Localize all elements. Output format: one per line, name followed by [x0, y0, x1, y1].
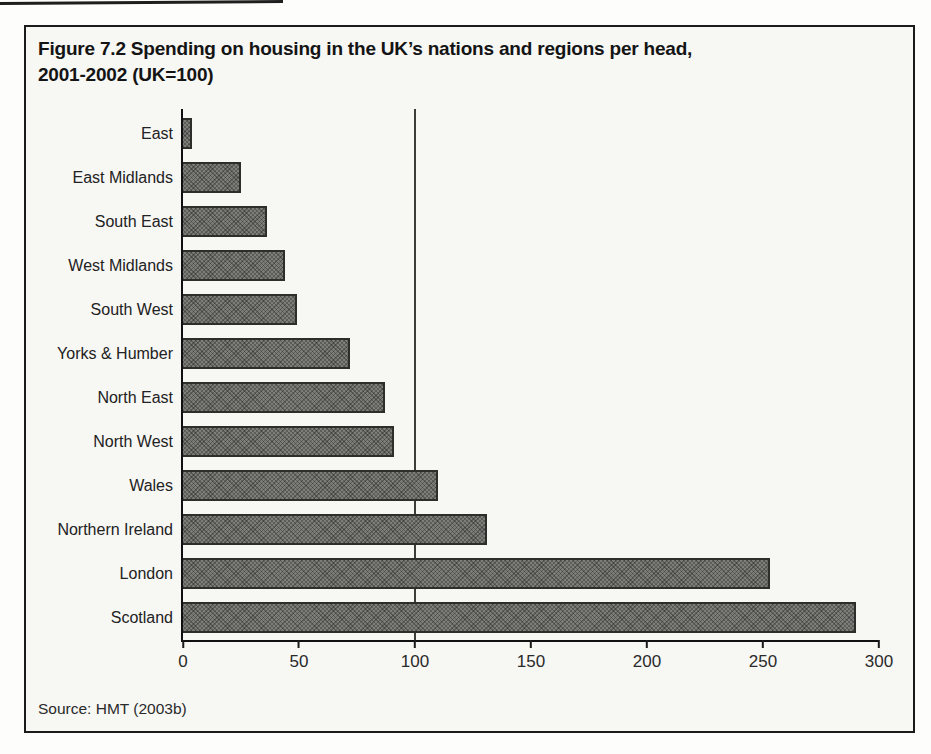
x-axis-tick-label: 100	[401, 652, 429, 672]
bar	[183, 470, 438, 501]
bar	[183, 162, 241, 193]
bar-row: North West	[183, 420, 879, 464]
bar-row: London	[183, 552, 879, 596]
bar-row: East Midlands	[183, 156, 879, 200]
x-axis-tick: 150	[517, 640, 545, 672]
x-axis-tick: 50	[290, 640, 309, 672]
category-label: West Midlands	[18, 244, 173, 288]
bar	[183, 426, 394, 457]
plot-area: EastEast MidlandsSouth EastWest Midlands…	[183, 112, 879, 640]
bar	[183, 118, 192, 149]
category-label: Scotland	[18, 596, 173, 640]
bar	[183, 338, 350, 369]
bar-row: Northern Ireland	[183, 508, 879, 552]
bar-row: Yorks & Humber	[183, 332, 879, 376]
source-caption: Source: HMT (2003b)	[38, 700, 187, 718]
scan-artifact-line	[0, 0, 283, 5]
bar	[183, 250, 285, 281]
x-axis-tick: 100	[401, 640, 429, 672]
category-label: South West	[18, 288, 173, 332]
category-label: East Midlands	[18, 156, 173, 200]
bar	[183, 602, 856, 633]
bar	[183, 514, 487, 545]
x-axis: 050100150200250300	[183, 640, 879, 680]
bar	[183, 294, 297, 325]
figure-title-line1: Figure 7.2 Spending on housing in the UK…	[38, 36, 888, 62]
x-axis-tick-mark	[646, 640, 648, 648]
category-label: Yorks & Humber	[18, 332, 173, 376]
x-axis-tick-label: 200	[633, 652, 661, 672]
category-label: Wales	[18, 464, 173, 508]
bar-row: East	[183, 112, 879, 156]
bar-row: South East	[183, 200, 879, 244]
figure-title: Figure 7.2 Spending on housing in the UK…	[38, 36, 888, 88]
x-axis-tick-mark	[182, 640, 184, 648]
x-axis-tick-mark	[298, 640, 300, 648]
x-axis-tick-label: 300	[865, 652, 893, 672]
x-axis-tick: 200	[633, 640, 661, 672]
bar-row: Scotland	[183, 596, 879, 640]
x-axis-tick-label: 50	[290, 652, 309, 672]
category-label: North East	[18, 376, 173, 420]
category-label: Northern Ireland	[18, 508, 173, 552]
x-axis-tick-label: 150	[517, 652, 545, 672]
bar	[183, 382, 385, 413]
x-axis-tick: 300	[865, 640, 893, 672]
x-axis-tick-mark	[414, 640, 416, 648]
x-axis-tick: 0	[178, 640, 187, 672]
category-label: East	[18, 112, 173, 156]
x-axis-tick: 250	[749, 640, 777, 672]
category-label: London	[18, 552, 173, 596]
bar	[183, 558, 770, 589]
bar	[183, 206, 267, 237]
bar-row: North East	[183, 376, 879, 420]
bar-row: South West	[183, 288, 879, 332]
category-label: North West	[18, 420, 173, 464]
category-label: South East	[18, 200, 173, 244]
x-axis-tick-label: 0	[178, 652, 187, 672]
x-axis-tick-label: 250	[749, 652, 777, 672]
bar-rows: EastEast MidlandsSouth EastWest Midlands…	[183, 112, 879, 640]
y-axis-line	[181, 109, 183, 640]
x-axis-tick-mark	[878, 640, 880, 648]
x-axis-tick-mark	[530, 640, 532, 648]
chart-frame: Figure 7.2 Spending on housing in the UK…	[24, 25, 915, 733]
x-axis-tick-mark	[762, 640, 764, 648]
bar-row: West Midlands	[183, 244, 879, 288]
figure-title-line2: 2001-2002 (UK=100)	[38, 62, 888, 88]
bar-row: Wales	[183, 464, 879, 508]
